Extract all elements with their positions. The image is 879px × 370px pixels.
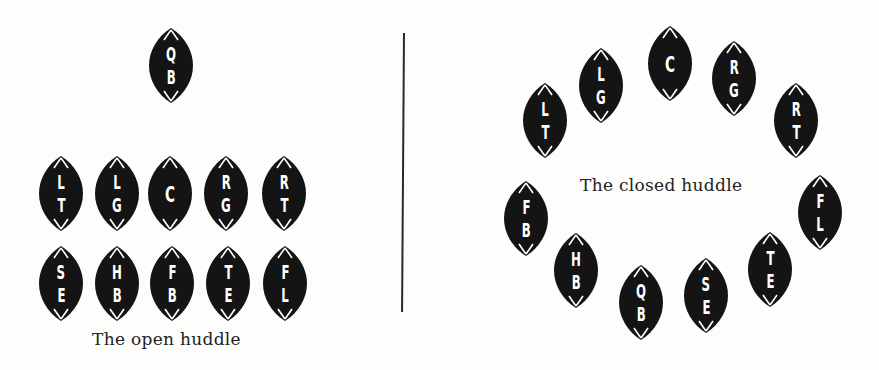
position-label: TE xyxy=(206,259,250,309)
player-ball-closed-fb: FB xyxy=(504,180,548,257)
position-label: SE xyxy=(684,271,728,321)
huddle-diagram: QB LT LG C RG RT SE HB FB TE FL The open… xyxy=(0,0,879,370)
position-label: QB xyxy=(149,41,193,91)
player-ball-closed-hb: HB xyxy=(554,232,598,309)
position-label: QB xyxy=(619,278,663,328)
position-label: FL xyxy=(263,259,307,309)
position-label: FB xyxy=(150,259,194,309)
player-ball-closed-c: C xyxy=(648,25,692,102)
position-label: SE xyxy=(39,259,83,309)
player-ball-open-se: SE xyxy=(39,245,83,322)
player-ball-open-te: TE xyxy=(206,245,250,322)
player-ball-open-hb: HB xyxy=(95,245,139,322)
position-label: RG xyxy=(712,54,756,104)
player-ball-open-fl: FL xyxy=(263,245,307,322)
position-label: RT xyxy=(774,96,818,146)
player-ball-closed-fl: FL xyxy=(798,174,842,251)
position-label: C xyxy=(648,39,692,89)
player-ball-closed-lt: LT xyxy=(523,82,567,159)
player-ball-open-lt: LT xyxy=(39,155,83,232)
player-ball-open-fb: FB xyxy=(150,245,194,322)
position-label: LG xyxy=(579,61,623,111)
position-label: C xyxy=(148,169,192,219)
player-ball-open-rt: RT xyxy=(262,155,306,232)
player-ball-closed-lg: LG xyxy=(579,47,623,124)
closed-huddle-caption: The closed huddle xyxy=(580,175,742,195)
player-ball-closed-se: SE xyxy=(684,257,728,334)
position-label: RG xyxy=(204,169,248,219)
player-ball-closed-te: TE xyxy=(748,231,792,308)
player-ball-open-qb: QB xyxy=(149,27,193,104)
position-label: HB xyxy=(554,246,598,296)
player-ball-closed-rt: RT xyxy=(774,82,818,159)
position-label: LG xyxy=(95,169,139,219)
player-ball-closed-rg: RG xyxy=(712,40,756,117)
position-label: RT xyxy=(262,169,306,219)
player-ball-open-c: C xyxy=(148,155,192,232)
position-label: FL xyxy=(798,188,842,238)
position-label: FB xyxy=(504,194,548,244)
open-huddle-caption: The open huddle xyxy=(92,329,241,349)
player-ball-closed-qb: QB xyxy=(619,264,663,341)
position-label: TE xyxy=(748,245,792,295)
position-label: LT xyxy=(523,96,567,146)
player-ball-open-lg: LG xyxy=(95,155,139,232)
player-ball-open-rg: RG xyxy=(204,155,248,232)
divider-line xyxy=(401,33,405,312)
position-label: HB xyxy=(95,259,139,309)
position-label: LT xyxy=(39,169,83,219)
